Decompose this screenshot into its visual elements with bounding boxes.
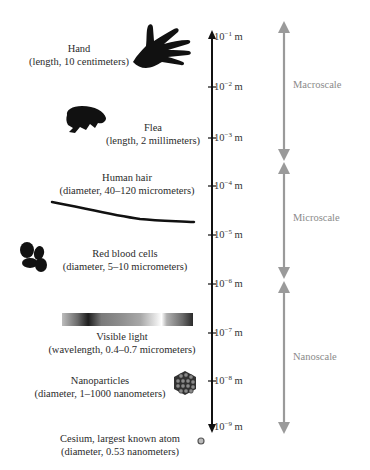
cesium-label: Cesium, largest known atom (diameter, 0.… (40, 432, 200, 458)
object-name: Human hair (52, 171, 202, 184)
object-detail: (diameter, 0.53 nanometers) (40, 445, 200, 458)
object-detail: (diameter, 5–10 micrometers) (50, 260, 200, 273)
tick-label: 10−2 m (214, 80, 243, 92)
object-detail: (diameter, 1–1000 nanometers) (25, 387, 175, 400)
object-name: Cesium, largest known atom (40, 432, 200, 445)
nanoscale-range-arrow (278, 281, 290, 434)
flea-label: Flea (length, 2 millimeters) (98, 121, 208, 147)
tick-label: 10−5 m (214, 228, 243, 240)
visible-light-label: Visible light (wavelength, 0.4–0.7 micro… (42, 330, 202, 356)
nanoscale-label: Nanoscale (293, 351, 337, 362)
tick-label: 10−8 m (214, 374, 243, 386)
nanoparticles-label: Nanoparticles (diameter, 1–1000 nanomete… (25, 374, 175, 400)
object-detail: (wavelength, 0.4–0.7 micrometers) (42, 343, 202, 356)
tick-label: 10−3 m (214, 131, 243, 143)
tick-label: 10−9 m (214, 420, 243, 432)
red-blood-cells-label: Red blood cells (diameter, 5–10 micromet… (50, 247, 200, 273)
human-hair-label: Human hair (diameter, 40–120 micrometers… (52, 171, 202, 197)
tick-label: 10−1 m (214, 30, 243, 42)
nanoparticle-cluster-icon (174, 371, 196, 395)
hand-label: Hand (length, 10 centimeters) (14, 42, 144, 68)
object-detail: (length, 2 millimeters) (98, 134, 208, 147)
red-blood-cells-icon (20, 242, 47, 272)
object-name: Hand (14, 42, 144, 55)
tick-label: 10−6 m (214, 277, 243, 289)
object-detail: (diameter, 40–120 micrometers) (52, 184, 202, 197)
hair-strand-icon (52, 202, 194, 222)
object-name: Nanoparticles (25, 374, 175, 387)
tick-label: 10−4 m (214, 179, 243, 191)
macroscale-label: Macroscale (293, 79, 341, 90)
microscale-label: Microscale (293, 212, 340, 223)
tick-label: 10−7 m (214, 326, 243, 338)
microscale-range-arrow (278, 162, 290, 279)
object-name: Visible light (42, 330, 202, 343)
object-detail: (length, 10 centimeters) (14, 55, 144, 68)
macroscale-range-arrow (278, 21, 290, 161)
object-name: Red blood cells (50, 247, 200, 260)
light-spectrum-icon (62, 313, 193, 326)
object-name: Flea (98, 121, 208, 134)
